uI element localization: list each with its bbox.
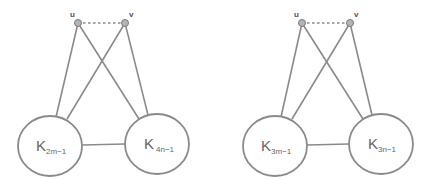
vertex-v-label: v bbox=[129, 10, 134, 19]
edge-clique-clique bbox=[307, 144, 349, 145]
edge-u-left bbox=[281, 23, 302, 117]
vertex-v bbox=[347, 20, 354, 27]
graph-diagrams: K2m−1 K4n−1 u v K3m−1 K3n−1 u v bbox=[0, 0, 430, 180]
clique-left bbox=[18, 116, 82, 176]
clique-left bbox=[243, 116, 307, 176]
clique-right bbox=[125, 114, 189, 174]
vertex-u-label: u bbox=[70, 10, 75, 19]
edge-v-left bbox=[67, 23, 125, 119]
edge-u-right bbox=[78, 23, 139, 119]
diagram-right: K3m−1 K3n−1 u v bbox=[243, 10, 413, 176]
diagram-left: K2m−1 K4n−1 u v bbox=[18, 10, 189, 176]
edge-u-left bbox=[56, 23, 78, 117]
vertex-u bbox=[299, 20, 306, 27]
edge-v-left bbox=[292, 23, 350, 119]
edge-v-right bbox=[350, 23, 372, 115]
vertex-u-label: u bbox=[294, 10, 299, 19]
edge-clique-clique bbox=[82, 144, 125, 145]
vertex-v bbox=[122, 20, 129, 27]
vertex-u bbox=[75, 20, 82, 27]
clique-right bbox=[349, 114, 413, 174]
vertex-v-label: v bbox=[354, 10, 359, 19]
